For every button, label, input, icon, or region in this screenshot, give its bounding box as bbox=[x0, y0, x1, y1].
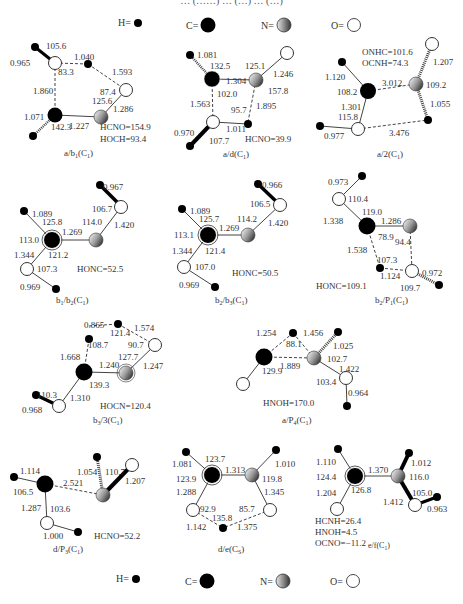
bond-length: 1.246 bbox=[273, 69, 294, 79]
bond-length: 1.012 bbox=[411, 458, 431, 468]
bond-length: 1.313 bbox=[225, 465, 246, 475]
bond-length: 1.288 bbox=[176, 487, 197, 497]
dihedral-angle: OCNH=74.3 bbox=[362, 58, 409, 68]
dihedral-angle: HCNO=154.9 bbox=[100, 122, 151, 132]
bond-length: 1.010 bbox=[275, 459, 296, 469]
bond-angle: 110.7 bbox=[105, 467, 125, 477]
bond-length: 1.593 bbox=[112, 67, 133, 77]
bond-length: 1.370 bbox=[368, 465, 389, 475]
bond-angle: 123.9 bbox=[176, 474, 197, 484]
bond-angle: 106.7 bbox=[92, 204, 113, 214]
bond-angle: 119.0 bbox=[362, 207, 382, 217]
bond-length: 1.344 bbox=[172, 246, 193, 256]
structure-b3-3: 0.865 121.4 1.574 108.7 90.7 1.668 127.7… bbox=[22, 320, 164, 426]
bond-angle: 107.3 bbox=[37, 264, 58, 274]
bond-length: 1.011 bbox=[226, 124, 246, 134]
bond-angle: 121.2 bbox=[48, 250, 68, 260]
structure-label: b3/3(C1) bbox=[93, 415, 123, 426]
bond-length: 1.304 bbox=[226, 76, 247, 86]
bond-length: 1.081 bbox=[197, 50, 217, 60]
bond-angle: 107.0 bbox=[195, 262, 216, 272]
dihedral-angle: OCNO=−11.2 bbox=[315, 538, 366, 548]
bond-angle: 109.2 bbox=[426, 80, 446, 90]
bond-length: 1.071 bbox=[24, 112, 44, 122]
bond-length: 1.860 bbox=[33, 86, 54, 96]
structure-label: d/e(CS) bbox=[218, 544, 244, 555]
legend-item-n: N= bbox=[260, 573, 291, 589]
bond-angle: 78.9 bbox=[378, 232, 394, 242]
bond-length: 1.054 bbox=[77, 467, 98, 477]
bond-length: 1.114 bbox=[20, 466, 40, 476]
bond-angle: 127.7 bbox=[118, 352, 139, 362]
bond-length: 0.977 bbox=[324, 131, 345, 141]
bond-angle: 106.5 bbox=[250, 199, 271, 209]
bond-angle: 107.3 bbox=[377, 255, 398, 265]
bond-length: 1.240 bbox=[99, 360, 120, 370]
bond-angle: 102.0 bbox=[217, 89, 238, 99]
structure-label: a/2(C1) bbox=[377, 149, 403, 160]
bond-angle: 95.7 bbox=[231, 105, 247, 115]
bond-angle: 125.8 bbox=[42, 217, 63, 227]
bond-length: 3.012 bbox=[382, 78, 402, 88]
bond-length: 0.969 bbox=[20, 282, 41, 292]
carbon-atom-icon bbox=[199, 573, 215, 589]
structure-d-P3: 1.114 1.054 110.7 2.521 1.207 106.5 1.28… bbox=[10, 453, 146, 555]
bond-length: 1.344 bbox=[14, 250, 35, 260]
legend-label: N= bbox=[260, 576, 273, 587]
bond-angle: 105.0 bbox=[412, 488, 433, 498]
bond-angle: 88.1 bbox=[286, 339, 302, 349]
structure-label: a/P4(C1) bbox=[282, 415, 312, 426]
bond-length: 1.247 bbox=[143, 361, 164, 371]
bond-length: 1.110 bbox=[316, 457, 336, 467]
bond-length: 1.375 bbox=[237, 522, 258, 532]
bond-angle: 121.4 bbox=[110, 328, 131, 338]
bond-length: 1.287 bbox=[21, 503, 42, 513]
bond-angle: 90.7 bbox=[128, 340, 144, 350]
structure-e-f: 1.110 1.370 1.012 124.4 116.0 126.8 105.… bbox=[315, 445, 448, 551]
bond-length: 1.301 bbox=[341, 102, 361, 112]
bond-length: 3.476 bbox=[389, 128, 410, 138]
bond-length: 1.412 bbox=[383, 497, 403, 507]
bond-length: 1.254 bbox=[256, 328, 277, 338]
dihedral-angle: HONC=109.1 bbox=[316, 281, 367, 291]
bond-angle: 83.3 bbox=[58, 67, 74, 77]
structure-d-e: 1.081 123.7 1.010 1.313 123.9 119.8 1.28… bbox=[172, 446, 296, 555]
bond-length: 1.055 bbox=[430, 99, 451, 109]
bond-length: 157.8 bbox=[268, 86, 289, 96]
bond-length: 1.538 bbox=[347, 245, 368, 255]
structure-label: a/b1(C1) bbox=[64, 148, 93, 159]
bond-length: 0.967 bbox=[103, 182, 124, 192]
bond-length: 0.966 bbox=[262, 180, 283, 190]
bond-angle: 142.3 bbox=[51, 122, 72, 132]
structure-label: b1/b2(C1) bbox=[56, 295, 89, 306]
bond-length: 1.124 bbox=[380, 271, 401, 281]
oxygen-atom-icon bbox=[345, 573, 361, 589]
bond-length: 1.345 bbox=[264, 487, 285, 497]
bond-angle: 125.6 bbox=[92, 96, 113, 106]
bond-angle: 116.0 bbox=[409, 472, 429, 482]
structure-a-P4: 1.254 1.456 88.1 1.025 102.7 1.889 1.422… bbox=[237, 328, 369, 426]
bond-length: 1.668 bbox=[60, 352, 81, 362]
dihedral-angle: HNOH=4.5 bbox=[315, 527, 358, 537]
bond-length: 1.563 bbox=[190, 99, 211, 109]
structure-label: a/d(C1) bbox=[223, 149, 249, 160]
bond-length: 1.420 bbox=[268, 218, 289, 228]
molecular-structures-figure: 105.6 1.040 0.965 83.3 1.593 1.860 87.4 … bbox=[0, 0, 463, 604]
bond-length: 1.286 bbox=[381, 216, 402, 226]
bond-length: 1.574 bbox=[134, 323, 155, 333]
bond-angle: 113.1 bbox=[174, 230, 194, 240]
bond-angle: 108.7 bbox=[88, 340, 109, 350]
bond-length: 0.963 bbox=[427, 504, 448, 514]
dihedral-angle: HOCH=93.4 bbox=[100, 134, 147, 144]
bond-length: 1.025 bbox=[333, 341, 354, 351]
bond-angle: 124.4 bbox=[316, 472, 337, 482]
bond-angle: 94.4 bbox=[395, 237, 411, 247]
bond-length: 0.965 bbox=[10, 58, 31, 68]
bond-length: 1.227 bbox=[69, 121, 90, 131]
bond-length: 1.269 bbox=[219, 223, 240, 233]
bond-angle: 126.8 bbox=[351, 485, 372, 495]
bond-angle: 119.8 bbox=[262, 474, 282, 484]
legend-item-h: H= bbox=[116, 573, 141, 584]
structure-b2-b3: 0.966 1.089 106.5 125.7 114.2 1.420 113.… bbox=[172, 180, 289, 306]
bond-length: 0.973 bbox=[328, 177, 349, 187]
